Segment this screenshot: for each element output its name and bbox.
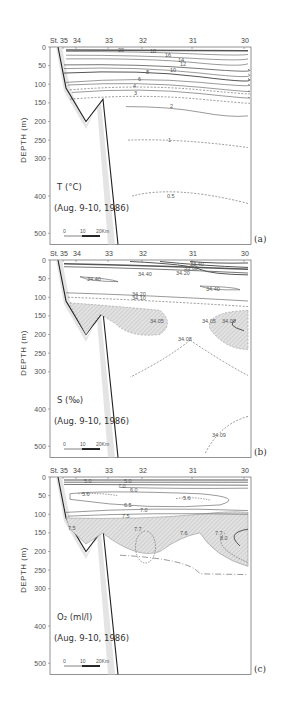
contour-label: 6.0 <box>130 487 138 493</box>
y-tick-label: 100 <box>34 81 46 88</box>
bathymetry-shade <box>56 260 115 457</box>
y-tick-label: 250 <box>34 350 46 357</box>
panel-label: (a) <box>254 234 266 244</box>
panel-label: (b) <box>254 447 267 457</box>
contour-label: 3 <box>134 90 137 96</box>
y-tick-label: 500 <box>34 660 46 667</box>
contour-label: 8 <box>146 69 149 75</box>
contour-label: 0.5 <box>167 193 175 199</box>
y-tick-label: 100 <box>34 511 46 518</box>
scale-label: 0 <box>63 228 66 234</box>
y-axis-label: DEPTH (m) <box>19 547 28 593</box>
date-label: (Aug. 9-10, 1986) <box>54 416 129 426</box>
scale-bar-light <box>64 448 82 450</box>
y-tick-label: 200 <box>34 548 46 555</box>
contour-line <box>120 487 248 488</box>
station-tick-label: 35 <box>60 467 68 474</box>
contour-line <box>66 55 248 60</box>
y-tick-label: 250 <box>34 137 46 144</box>
contour-line <box>128 140 248 148</box>
contour-label: 7.7 <box>134 526 142 532</box>
contour-label: 7.5 <box>68 525 76 531</box>
y-axis-label: DEPTH (m) <box>19 117 28 163</box>
station-tick-label: 34 <box>73 250 81 257</box>
contour-line <box>132 192 248 204</box>
scale-label: 20Km <box>96 658 109 664</box>
scale-label: 10 <box>80 441 86 447</box>
station-label: St. <box>50 37 59 44</box>
y-tick-label: 50 <box>38 62 46 69</box>
station-tick-label: 30 <box>241 37 249 44</box>
date-label: (Aug. 9-10, 1986) <box>54 633 129 643</box>
contour-label: 34.40 <box>138 271 152 277</box>
contour-line <box>64 484 248 485</box>
contour-label: 1 <box>168 137 171 143</box>
panel-c: St.353433323130050100150200250300400500D… <box>19 467 266 674</box>
date-label: (Aug. 9-10, 1986) <box>54 203 129 213</box>
contour-label: 7.6 <box>180 530 188 536</box>
contour-line <box>72 90 250 98</box>
figure: St.353433323130050100150200250300400500D… <box>0 0 285 705</box>
station-tick-label: 31 <box>189 250 197 257</box>
y-tick-label: 400 <box>34 193 46 200</box>
scale-label: 20Km <box>96 228 109 234</box>
contour-label: 2 <box>170 103 173 109</box>
contour-label: 34.40 <box>87 276 101 282</box>
contour-label: 18 <box>150 48 156 54</box>
contour-label: 34.05 <box>202 318 216 324</box>
y-tick-label: 50 <box>38 492 46 499</box>
contour-line <box>176 498 210 500</box>
station-tick-label: 35 <box>60 250 68 257</box>
panel-label: (c) <box>254 664 266 674</box>
scale-bar-dark <box>82 448 100 450</box>
station-tick-label: 33 <box>105 250 113 257</box>
station-tick-label: 32 <box>139 37 147 44</box>
station-tick-label: 32 <box>139 250 147 257</box>
contour-label: 5.6 <box>183 495 191 501</box>
station-tick-label: 33 <box>105 37 113 44</box>
bathymetry-shade <box>56 477 115 674</box>
contour-label: 34.40 <box>206 286 220 292</box>
contour-line <box>66 80 250 86</box>
y-tick-label: 300 <box>34 155 46 162</box>
contour-line <box>66 51 248 55</box>
y-tick-label: 0 <box>42 44 46 51</box>
y-tick-label: 500 <box>34 230 46 237</box>
y-tick-label: 0 <box>42 257 46 264</box>
scale-label: 0 <box>63 441 66 447</box>
station-tick-label: 35 <box>60 37 68 44</box>
contour-label: 12 <box>180 61 186 67</box>
contour-label: 34.20 <box>176 270 190 276</box>
contour-label: 34.08 <box>178 336 192 342</box>
station-tick-label: 30 <box>241 467 249 474</box>
scale-bar-dark <box>82 235 100 237</box>
y-tick-label: 150 <box>34 312 46 319</box>
y-tick-label: 500 <box>34 443 46 450</box>
scale-label: 0 <box>63 658 66 664</box>
station-label: St. <box>50 250 59 257</box>
contour-label: 6 <box>138 76 141 82</box>
scale-bar-light <box>64 235 82 237</box>
y-tick-label: 0 <box>42 474 46 481</box>
scale-label: 20Km <box>96 441 109 447</box>
y-tick-label: 200 <box>34 331 46 338</box>
y-tick-label: 150 <box>34 99 46 106</box>
contour-label: 8.0 <box>220 535 228 541</box>
station-tick-label: 30 <box>241 250 249 257</box>
bathymetry-shade <box>56 47 115 244</box>
y-tick-label: 400 <box>34 623 46 630</box>
contour-line <box>66 293 248 301</box>
y-tick-label: 250 <box>34 567 46 574</box>
contour-line <box>70 492 229 507</box>
y-tick-label: 150 <box>34 529 46 536</box>
contour-label: 34.09 <box>212 432 226 438</box>
variable-label: S (‰) <box>57 395 83 405</box>
station-tick-label: 34 <box>73 467 81 474</box>
scale-bar-dark <box>82 665 100 667</box>
contour-label: 4 <box>133 83 136 89</box>
contour-label: 7.0 <box>118 483 126 489</box>
contour-line <box>70 96 250 103</box>
station-tick-label: 33 <box>105 467 113 474</box>
contour-line <box>126 107 248 117</box>
y-tick-label: 100 <box>34 294 46 301</box>
